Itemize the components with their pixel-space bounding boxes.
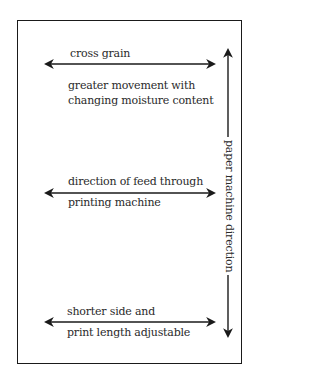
moisture-note-line1: greater movement with [68,79,195,93]
print-length-label: print length adjustable [67,326,190,340]
feed-direction-label: direction of feed through [68,175,203,189]
paper-machine-direction-label: paper machine direction [223,137,236,275]
printing-machine-label: printing machine [68,196,161,210]
shorter-side-label: shorter side and [67,305,155,319]
moisture-note-line2: changing moisture content [68,94,213,108]
cross-grain-label: cross grain [70,47,130,61]
